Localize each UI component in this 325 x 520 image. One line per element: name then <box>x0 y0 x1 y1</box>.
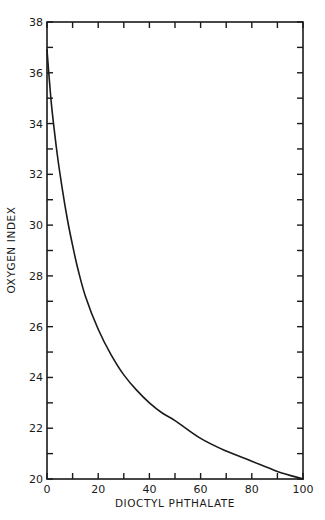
y-tick-label: 38 <box>29 16 43 29</box>
y-tick-label: 32 <box>29 168 43 181</box>
y-tick-label: 22 <box>29 422 43 435</box>
y-tick-label: 34 <box>29 118 43 131</box>
data-curve <box>47 50 303 479</box>
y-tick-label: 26 <box>29 321 43 334</box>
y-tick-label: 20 <box>29 473 43 486</box>
plot-frame <box>47 22 303 479</box>
axis-ticks <box>47 22 303 479</box>
x-tick-label: 80 <box>245 483 259 496</box>
x-tick-label: 20 <box>91 483 105 496</box>
y-tick-label: 36 <box>29 67 43 80</box>
x-tick-label: 40 <box>142 483 156 496</box>
y-axis-tick-labels: 20222426283032343638 <box>29 16 43 486</box>
y-axis-title: OXYGEN INDEX <box>5 206 17 293</box>
x-tick-label: 0 <box>44 483 51 496</box>
x-tick-label: 100 <box>293 483 314 496</box>
x-axis-tick-labels: 020406080100 <box>44 483 314 496</box>
y-tick-label: 28 <box>29 270 43 283</box>
x-axis-title: DIOCTYL PHTHALATE <box>115 497 235 509</box>
y-tick-label: 24 <box>29 371 43 384</box>
oxygen-index-chart: 20222426283032343638 020406080100 DIOCTY… <box>0 0 325 520</box>
y-tick-label: 30 <box>29 219 43 232</box>
x-tick-label: 60 <box>194 483 208 496</box>
